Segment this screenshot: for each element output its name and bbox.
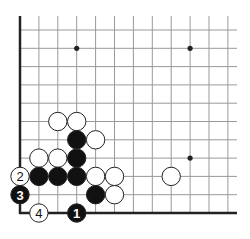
white-stone-icon — [105, 186, 123, 204]
move-number-label: 3 — [16, 188, 23, 203]
black-stone-icon — [30, 167, 48, 185]
white-stone-icon — [49, 112, 67, 130]
black-stone — [86, 186, 104, 204]
white-stone-icon — [105, 167, 123, 185]
white-stone-icon — [68, 112, 86, 130]
white-stone — [105, 167, 123, 185]
black-stone-3: 3 — [11, 186, 29, 204]
move-number-label: 1 — [73, 206, 80, 221]
black-stone-icon — [86, 186, 104, 204]
white-stone — [86, 131, 104, 149]
black-stone-1: 1 — [68, 204, 86, 222]
white-stone-icon — [86, 131, 104, 149]
white-stone — [162, 167, 180, 185]
white-stone — [68, 112, 86, 130]
white-stone — [105, 186, 123, 204]
black-stone — [30, 167, 48, 185]
black-stone-icon — [68, 167, 86, 185]
star-point-icon — [74, 46, 79, 51]
white-stone — [86, 167, 104, 185]
white-stone-2: 2 — [11, 167, 29, 185]
black-stone — [68, 167, 86, 185]
white-stone-icon — [162, 167, 180, 185]
white-stone — [49, 112, 67, 130]
go-board: 1234 — [0, 0, 250, 239]
star-point-icon — [188, 46, 193, 51]
move-number-label: 4 — [35, 206, 42, 221]
star-point-icon — [188, 156, 193, 161]
white-stone-4: 4 — [30, 204, 48, 222]
white-stone-icon — [30, 149, 48, 167]
black-stone — [49, 167, 67, 185]
move-number-label: 2 — [16, 169, 23, 184]
black-stone — [68, 131, 86, 149]
white-stone — [49, 149, 67, 167]
black-stone-icon — [68, 149, 86, 167]
white-stone — [30, 149, 48, 167]
black-stone-icon — [68, 131, 86, 149]
white-stone-icon — [86, 167, 104, 185]
white-stone-icon — [49, 149, 67, 167]
black-stone — [68, 149, 86, 167]
black-stone-icon — [49, 167, 67, 185]
